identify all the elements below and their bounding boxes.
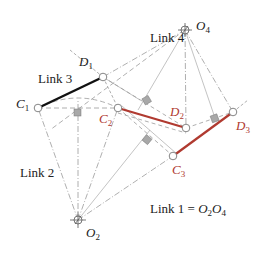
label-d2: D2 xyxy=(169,104,184,121)
joints xyxy=(34,73,237,160)
joint-c1 xyxy=(34,104,42,112)
joint-d2 xyxy=(182,124,190,132)
label-o2: O2 xyxy=(86,225,100,242)
label-c1: C1 xyxy=(16,96,29,113)
joint-c2 xyxy=(114,104,122,112)
o2-to-c1 xyxy=(38,108,78,220)
o4-to-d2 xyxy=(185,30,186,128)
label-link4: Link 4 xyxy=(150,30,185,45)
label-c3: C3 xyxy=(172,162,186,179)
label-link2: Link 2 xyxy=(20,165,54,180)
o4-perp-d2d3 xyxy=(185,30,215,118)
label-link1: Link 1 = O2O4 xyxy=(150,201,226,218)
joint-d1 xyxy=(99,73,107,81)
label-d3: D3 xyxy=(235,118,250,135)
o2-perp-c2c3 xyxy=(78,130,150,220)
label-d1: D1 xyxy=(78,54,93,71)
label-link3: Link 3 xyxy=(38,71,72,86)
label-c2: C2 xyxy=(99,111,112,128)
label-o4: O4 xyxy=(196,18,210,35)
d2-d3-chord xyxy=(186,112,233,128)
right-angle-icon xyxy=(74,109,81,116)
joint-c3 xyxy=(169,152,177,160)
joint-d3 xyxy=(229,108,237,116)
right-angle-icon xyxy=(142,95,152,105)
linkage-diagram: Link 4 Link 3 Link 2 Link 1 = O2O4 O4 O2… xyxy=(0,0,267,261)
ground-pivot-o2-icon xyxy=(70,212,86,228)
right-angle-icon xyxy=(210,114,219,123)
